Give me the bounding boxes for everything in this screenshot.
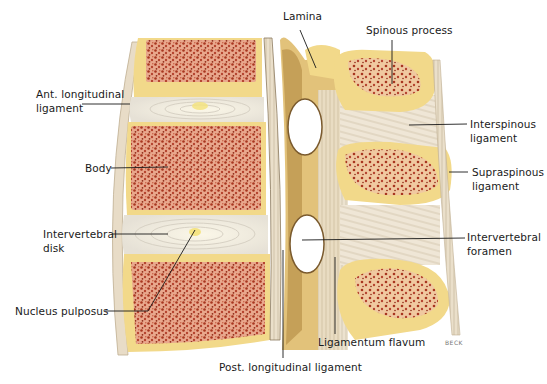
- label-ligamentum-flavum: Ligamentum flavum: [318, 335, 425, 349]
- label-intervertebral-foramen: Intervertebral foramen: [467, 230, 541, 258]
- anatomy-figure: Lamina Spinous process Ant. longitudinal…: [0, 0, 547, 384]
- intervertebral-disk-1: [130, 97, 265, 122]
- intervertebral-disk-2: [122, 215, 268, 254]
- intervertebral-foramen-1: [288, 99, 322, 155]
- label-intervertebral-disk: Intervertebral disk: [43, 227, 117, 255]
- vertebral-body-3: [123, 254, 270, 352]
- label-post-longitudinal-ligament: Post. longitudinal ligament: [219, 360, 362, 374]
- spinous-process-2: [336, 142, 452, 205]
- vertebral-body-2: [126, 122, 266, 215]
- spine-illustration: [0, 0, 547, 384]
- intervertebral-foramen-2: [290, 215, 324, 273]
- spinous-process-3: [337, 259, 450, 340]
- spinous-process-1: [334, 50, 437, 112]
- label-ant-longitudinal-ligament: Ant. longitudinal ligament: [36, 87, 124, 115]
- label-body: Body: [85, 161, 112, 175]
- artist-signature: BECK: [445, 339, 463, 346]
- label-spinous-process: Spinous process: [366, 23, 453, 37]
- label-supraspinous-ligament: Supraspinous ligament: [472, 165, 544, 193]
- label-nucleus-pulposus: Nucleus pulposus: [15, 304, 109, 318]
- label-lamina: Lamina: [283, 9, 322, 23]
- vertebral-body-1: [134, 38, 263, 97]
- label-interspinous-ligament: Interspinous ligament: [470, 117, 536, 145]
